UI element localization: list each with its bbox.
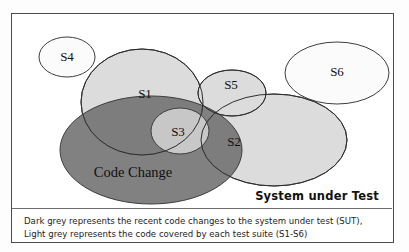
set-label-s6: S6: [330, 64, 344, 79]
set-label-s1: S1: [138, 86, 152, 101]
set-label-s5: S5: [224, 77, 238, 92]
figure-caption: Dark grey represents the recent code cha…: [24, 215, 384, 240]
figure-root: S4 S1 S5 S6 S2 Code Change S3 System und…: [0, 0, 409, 252]
caption-line-1: Dark grey represents the recent code cha…: [24, 215, 384, 228]
system-under-test-label: System under Test: [255, 189, 379, 203]
set-label-s4: S4: [60, 49, 74, 64]
set-label-s3: S3: [171, 124, 185, 139]
caption-divider: [12, 208, 392, 209]
euler-diagram: S4 S1 S5 S6 S2 Code Change S3: [12, 14, 392, 207]
caption-line-2: Light grey represents the code covered b…: [24, 228, 384, 241]
euler-diagram-svg: S4 S1 S5 S6 S2 Code Change S3: [12, 14, 392, 207]
set-label-s2: S2: [227, 134, 241, 149]
set-label-code-change: Code Change: [94, 164, 173, 180]
figure-frame: S4 S1 S5 S6 S2 Code Change S3 System und…: [11, 13, 394, 243]
set-ellipse-code-change: [60, 96, 242, 204]
